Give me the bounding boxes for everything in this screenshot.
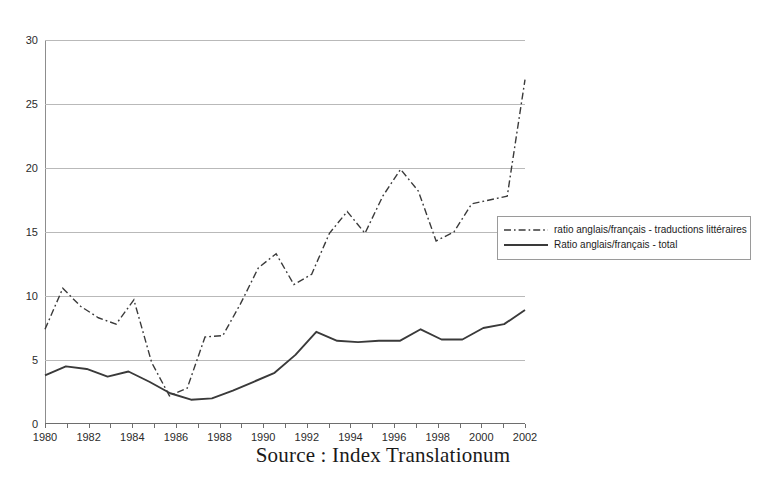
x-tick-mark — [350, 424, 351, 428]
x-tick-mark — [503, 424, 504, 428]
series-line-total — [45, 310, 525, 400]
x-tick-mark — [154, 424, 155, 428]
x-tick-mark — [372, 424, 373, 428]
x-tick-mark — [67, 424, 68, 428]
x-tick-mark — [110, 424, 111, 428]
legend-label-literary: ratio anglais/français - traductions lit… — [554, 225, 747, 235]
x-tick-mark — [438, 424, 439, 428]
legend-swatch-solid-icon — [504, 240, 548, 250]
x-tick-label: 1986 — [164, 431, 188, 443]
y-tick-label: 15 — [26, 226, 38, 238]
y-tick-label: 10 — [26, 290, 38, 302]
chart-page: 051015202530 198019821984198619881990199… — [0, 0, 766, 478]
x-tick-mark — [394, 424, 395, 428]
x-tick-mark — [220, 424, 221, 428]
source-caption: Source : Index Translationum — [0, 443, 766, 468]
x-tick-label: 2000 — [469, 431, 493, 443]
x-tick-label: 1984 — [120, 431, 144, 443]
legend-swatch-dash-dot-icon — [504, 225, 548, 235]
x-tick-mark — [89, 424, 90, 428]
x-tick-mark — [329, 424, 330, 428]
x-tick-mark — [263, 424, 264, 428]
legend-item-literary: ratio anglais/français - traductions lit… — [504, 223, 744, 237]
x-tick-mark — [45, 424, 46, 428]
y-tick-label: 0 — [32, 418, 38, 430]
x-tick-mark — [416, 424, 417, 428]
chart-legend: ratio anglais/français - traductions lit… — [497, 216, 751, 260]
y-tick-label: 20 — [26, 162, 38, 174]
x-tick-mark — [198, 424, 199, 428]
x-tick-mark — [241, 424, 242, 428]
x-tick-label: 1990 — [251, 431, 275, 443]
x-tick-mark — [132, 424, 133, 428]
y-tick-label: 30 — [26, 34, 38, 46]
chart-plot-area: 051015202530 198019821984198619881990199… — [45, 40, 525, 424]
x-tick-label: 2002 — [513, 431, 537, 443]
x-tick-mark — [307, 424, 308, 428]
x-tick-label: 1980 — [33, 431, 57, 443]
series-line-literary — [45, 80, 525, 396]
legend-label-total: Ratio anglais/français - total — [554, 240, 677, 250]
legend-item-total: Ratio anglais/français - total — [504, 238, 744, 252]
x-tick-label: 1998 — [425, 431, 449, 443]
series-lines — [45, 40, 525, 424]
x-tick-label: 1994 — [338, 431, 362, 443]
x-tick-label: 1996 — [382, 431, 406, 443]
y-tick-label: 5 — [32, 354, 38, 366]
x-tick-mark — [285, 424, 286, 428]
x-tick-mark — [481, 424, 482, 428]
x-tick-mark — [525, 424, 526, 428]
x-tick-mark — [176, 424, 177, 428]
x-tick-label: 1992 — [295, 431, 319, 443]
x-tick-label: 1988 — [207, 431, 231, 443]
x-tick-mark — [460, 424, 461, 428]
y-tick-label: 25 — [26, 98, 38, 110]
x-tick-label: 1982 — [76, 431, 100, 443]
